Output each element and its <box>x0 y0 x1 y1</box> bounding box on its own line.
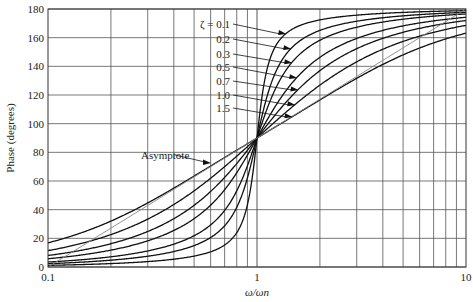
svg-text:120: 120 <box>28 89 45 101</box>
zeta-label-0.1: ζ = 0.1 <box>200 18 230 31</box>
svg-text:140: 140 <box>28 60 45 72</box>
svg-text:160: 160 <box>28 32 45 44</box>
svg-text:0.1: 0.1 <box>41 271 55 283</box>
svg-text:100: 100 <box>28 118 45 130</box>
x-axis-ticks: 0.1110 <box>41 271 472 283</box>
y-axis-ticks: 020406080100120140160180 <box>28 3 45 273</box>
phase-chart: 020406080100120140160180 0.1110 ζ = 0.10… <box>0 0 473 302</box>
svg-text:180: 180 <box>28 3 45 15</box>
zeta-label-0.7: 0.7 <box>216 75 230 87</box>
svg-text:Asymptote: Asymptote <box>141 149 189 161</box>
svg-text:1: 1 <box>254 271 260 283</box>
zeta-label-0.3: 0.3 <box>216 48 230 60</box>
y-axis-label: Phase (degrees) <box>4 103 17 173</box>
svg-text:40: 40 <box>33 204 45 216</box>
zeta-label-0.5: 0.5 <box>216 61 230 73</box>
svg-text:80: 80 <box>33 146 45 158</box>
asymptote-annotation: Asymptote <box>141 149 211 165</box>
zeta-label-1.0: 1.0 <box>216 89 230 101</box>
zeta-label-0.2: 0.2 <box>216 33 230 45</box>
x-axis-label: ω/ωn <box>245 286 270 298</box>
svg-text:20: 20 <box>33 232 45 244</box>
svg-text:10: 10 <box>461 271 473 283</box>
zeta-annotations: ζ = 0.10.20.30.50.71.01.5 <box>200 18 299 118</box>
zeta-label-1.5: 1.5 <box>216 102 230 114</box>
svg-text:60: 60 <box>33 175 45 187</box>
